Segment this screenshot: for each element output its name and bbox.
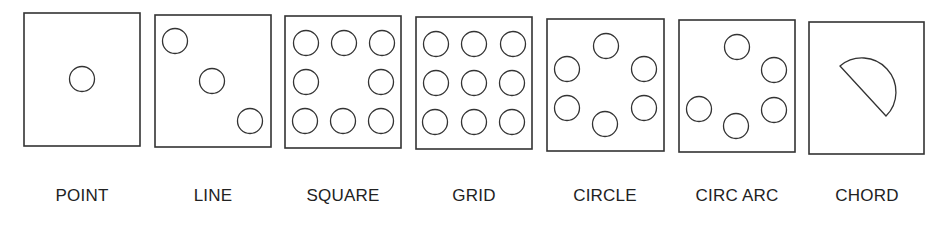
panel-chord [809, 22, 924, 154]
panel-point [24, 13, 140, 146]
label-grid: GRID [404, 186, 544, 206]
panel-circ-arc [679, 20, 795, 152]
panel-frame [285, 16, 401, 148]
panel-grid [416, 17, 532, 149]
panel-square [285, 16, 401, 148]
label-chord: CHORD [797, 186, 937, 206]
panel-frame [547, 19, 664, 151]
panel-circle [547, 19, 664, 151]
label-point: POINT [12, 186, 152, 206]
panels-group [24, 13, 924, 154]
panel-frame [809, 22, 924, 154]
label-circle: CIRCLE [535, 186, 675, 206]
label-circ-arc: CIRC ARC [667, 186, 807, 206]
panel-frame [155, 15, 271, 147]
label-square: SQUARE [273, 186, 413, 206]
label-line: LINE [143, 186, 283, 206]
panel-line [155, 15, 271, 147]
panel-frame [679, 20, 795, 152]
panel-frame [24, 13, 140, 146]
panel-frame [416, 17, 532, 149]
